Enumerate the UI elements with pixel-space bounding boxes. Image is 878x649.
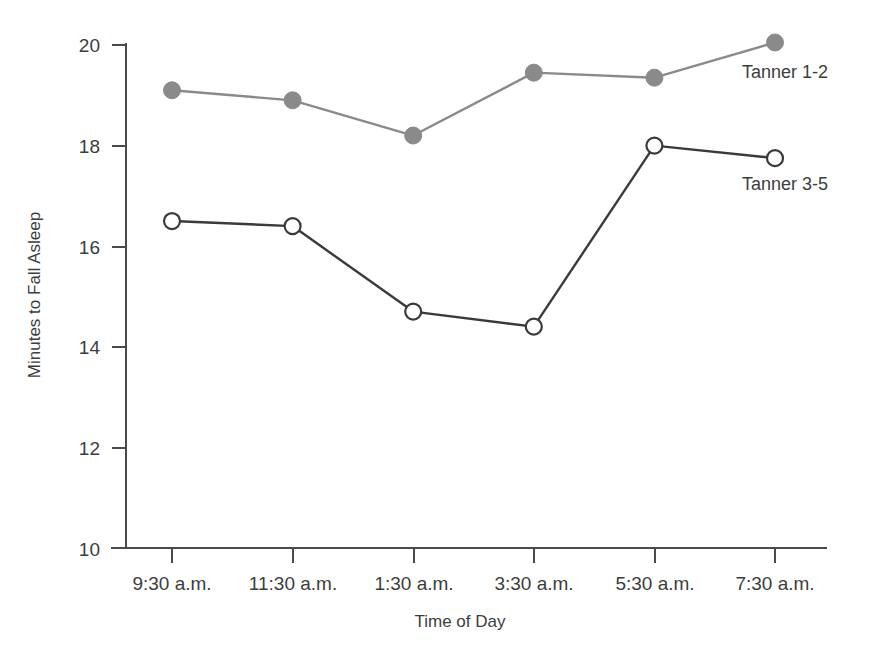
data-point-open <box>164 213 180 229</box>
x-axis-title: Time of Day <box>414 612 506 631</box>
data-point-open <box>767 150 783 166</box>
x-tick-label-1: 11:30 a.m. <box>249 573 337 594</box>
series-label-tanner-3-5: Tanner 3-5 <box>742 174 828 194</box>
chart-page: Minutes to Fall Asleep 20 18 16 14 12 10… <box>0 0 878 649</box>
line-chart: Minutes to Fall Asleep 20 18 16 14 12 10… <box>0 0 878 649</box>
y-tick-label-12: 12 <box>79 438 100 459</box>
x-tick-label-0: 9:30 a.m. <box>132 573 211 594</box>
x-tick-label-4: 5:30 a.m. <box>615 573 694 594</box>
x-tick-label-3: 3:30 a.m. <box>494 573 573 594</box>
x-tick-label-5: 7:30 a.m. <box>735 573 814 594</box>
series-line-tanner-3-5 <box>172 146 775 327</box>
data-point-filled <box>767 34 784 51</box>
data-point-filled <box>405 127 422 144</box>
data-point-open <box>405 304 421 320</box>
series-markers-tanner-3-5 <box>164 138 783 335</box>
data-point-filled <box>646 69 663 86</box>
y-axis-title: Minutes to Fall Asleep <box>25 212 44 378</box>
data-point-filled <box>525 64 542 81</box>
series-group-tanner-1-2 <box>164 34 784 144</box>
y-tick-label-18: 18 <box>79 136 100 157</box>
series-label-tanner-1-2: Tanner 1-2 <box>742 62 828 82</box>
series-line-tanner-1-2 <box>172 42 775 135</box>
data-point-filled <box>164 82 181 99</box>
y-tick-label-20: 20 <box>79 35 100 56</box>
series-markers-tanner-1-2 <box>164 34 784 144</box>
data-point-open <box>526 319 542 335</box>
series-group-tanner-3-5 <box>164 138 783 335</box>
y-tick-label-16: 16 <box>79 237 100 258</box>
x-tick-label-2: 1:30 a.m. <box>374 573 453 594</box>
y-tick-label-14: 14 <box>79 337 101 358</box>
data-point-open <box>285 218 301 234</box>
y-tick-label-10: 10 <box>79 539 100 560</box>
data-point-filled <box>284 92 301 109</box>
data-point-open <box>646 138 662 154</box>
